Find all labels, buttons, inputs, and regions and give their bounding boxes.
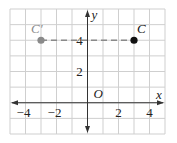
tick-labels: −4−22424 bbox=[17, 33, 154, 120]
point-label-c: C bbox=[137, 21, 146, 36]
y-axis-arrow-up-icon bbox=[85, 10, 90, 17]
coordinate-plane: −4−22424 x y O C'C bbox=[0, 0, 177, 143]
origin-label: O bbox=[94, 86, 104, 101]
point-label-c-prime: C' bbox=[31, 21, 43, 36]
x-tick-label: 2 bbox=[115, 105, 122, 120]
point-c-prime bbox=[37, 37, 44, 44]
y-axis-arrow-down-icon bbox=[85, 126, 90, 133]
y-tick-label: 2 bbox=[76, 64, 83, 79]
x-axis-label: x bbox=[155, 87, 162, 102]
point-c bbox=[130, 37, 137, 44]
x-tick-label: 4 bbox=[146, 105, 153, 120]
y-axis-label: y bbox=[90, 7, 98, 22]
x-tick-label: −2 bbox=[48, 105, 62, 120]
x-tick-label: −4 bbox=[17, 105, 31, 120]
